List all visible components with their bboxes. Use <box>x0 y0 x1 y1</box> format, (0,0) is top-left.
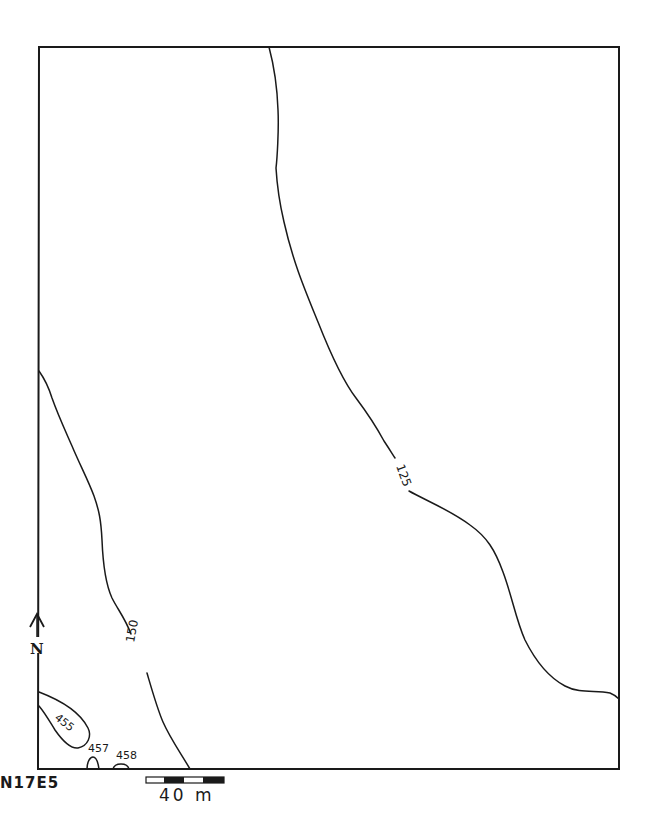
feature-label-457: 457 <box>88 742 109 755</box>
contour-line-150 <box>39 371 131 634</box>
contour-label-150: 150 <box>123 619 141 644</box>
contour-line-125 <box>269 47 395 458</box>
contour-line-125-lower <box>409 491 619 699</box>
feature-457-outline <box>87 757 99 769</box>
sheet-id-label: N17E5 <box>0 774 59 792</box>
contour-line-150-lower <box>147 673 190 769</box>
map-canvas: 125 150 455 457 458 N N17E5 40 m <box>0 0 656 829</box>
scale-bar <box>146 777 224 783</box>
scale-label: 40 m <box>159 785 215 805</box>
north-label: N <box>30 640 44 658</box>
contour-label-125: 125 <box>393 462 414 488</box>
feature-label-458: 458 <box>116 749 137 762</box>
map-frame <box>38 47 619 769</box>
